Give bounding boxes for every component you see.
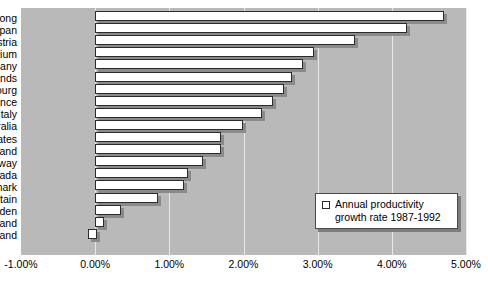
x-axis-tick-labels: -1.00%0.00%1.00%2.00%3.00%4.00%5.00% bbox=[0, 258, 488, 278]
bar-hong-kong bbox=[95, 11, 444, 21]
legend-label-line2: growth rate 1987-1992 bbox=[335, 211, 441, 223]
bar-row: Hong Kong bbox=[21, 11, 466, 24]
category-label-france: France bbox=[0, 97, 17, 108]
x-tick-label: 1.00% bbox=[154, 258, 184, 270]
bar-row: France bbox=[21, 96, 466, 109]
category-label-luxembourg: Luxembourg bbox=[0, 85, 17, 96]
gridline-5.00% bbox=[466, 8, 467, 255]
bar-row: Austria bbox=[21, 35, 466, 48]
bar-row: Italy bbox=[21, 108, 466, 121]
x-tick-label: 0.00% bbox=[80, 258, 110, 270]
bar-row: Switzerland bbox=[21, 144, 466, 157]
category-label-austria: Austria bbox=[0, 36, 17, 47]
bar-britain bbox=[95, 193, 158, 203]
x-tick-label: -1.00% bbox=[4, 258, 37, 270]
category-label-germany: Germany bbox=[0, 60, 17, 71]
bar-united-states bbox=[95, 132, 221, 142]
bar-row: Luxembourg bbox=[21, 84, 466, 97]
bar-netherlands bbox=[95, 72, 292, 82]
legend-label-line1: Annual productivity bbox=[335, 198, 424, 210]
category-label-japan: Japan bbox=[0, 24, 17, 35]
bar-sweden bbox=[95, 205, 121, 215]
category-label-australia: Australia bbox=[0, 121, 17, 132]
category-label-finland: Finland bbox=[0, 218, 17, 229]
bar-france bbox=[95, 96, 273, 106]
x-tick-label: 5.00% bbox=[451, 258, 481, 270]
category-label-italy: Italy bbox=[0, 109, 17, 120]
chart-legend: Annual productivity growth rate 1987-199… bbox=[315, 193, 458, 229]
category-label-united-states: United States bbox=[0, 133, 17, 144]
category-label-hong-kong: Hong Kong bbox=[0, 12, 17, 23]
bar-row: Netherlands bbox=[21, 72, 466, 85]
category-label-belgium: Belgium bbox=[0, 48, 17, 59]
category-label-sweden: Sweden bbox=[0, 206, 17, 217]
category-label-iceland: Iceland bbox=[0, 230, 17, 241]
bar-row: Norway bbox=[21, 156, 466, 169]
bar-row: Denmark bbox=[21, 180, 466, 193]
bar-norway bbox=[95, 156, 203, 166]
bar-row: United States bbox=[21, 132, 466, 145]
category-label-canada: Canada bbox=[0, 169, 17, 180]
bar-australia bbox=[95, 120, 243, 130]
bar-belgium bbox=[95, 47, 314, 57]
category-label-britain: Britain bbox=[0, 194, 17, 205]
category-label-norway: Norway bbox=[0, 157, 17, 168]
bar-row: Germany bbox=[21, 59, 466, 72]
legend-swatch-bar-icon bbox=[322, 201, 330, 209]
bar-row: Canada bbox=[21, 168, 466, 181]
bar-iceland bbox=[88, 229, 97, 239]
bar-row: Australia bbox=[21, 120, 466, 133]
bar-denmark bbox=[95, 180, 184, 190]
category-label-netherlands: Netherlands bbox=[0, 73, 17, 84]
bar-finland bbox=[95, 217, 104, 227]
x-tick-label: 3.00% bbox=[303, 258, 333, 270]
bar-row: Belgium bbox=[21, 47, 466, 60]
category-label-switzerland: Switzerland bbox=[0, 145, 17, 156]
bar-canada bbox=[95, 168, 188, 178]
bar-italy bbox=[95, 108, 262, 118]
bar-austria bbox=[95, 35, 355, 45]
bar-germany bbox=[95, 59, 303, 69]
bar-row: Japan bbox=[21, 23, 466, 36]
productivity-growth-bar-chart: Hong KongJapanAustriaBelgiumGermanyNethe… bbox=[0, 0, 488, 283]
category-label-denmark: Denmark bbox=[0, 181, 17, 192]
x-tick-label: 4.00% bbox=[377, 258, 407, 270]
x-tick-label: 2.00% bbox=[229, 258, 259, 270]
bar-luxembourg bbox=[95, 84, 284, 94]
bar-switzerland bbox=[95, 144, 221, 154]
bar-japan bbox=[95, 23, 407, 33]
legend-label: Annual productivity growth rate 1987-199… bbox=[335, 198, 441, 224]
